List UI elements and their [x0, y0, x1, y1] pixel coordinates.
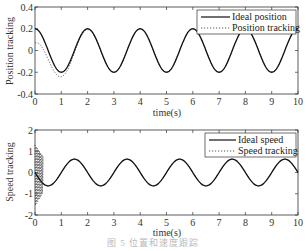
svg-text:4: 4	[138, 96, 143, 107]
y-axis-label-speed: Speed tracking	[4, 142, 15, 202]
speed-tracking-plot: -2-1012 012345678910 Speed tracking time…	[4, 125, 303, 240]
svg-text:1: 1	[59, 96, 64, 107]
svg-text:9: 9	[269, 96, 274, 107]
svg-text:6: 6	[190, 217, 195, 228]
svg-text:0: 0	[33, 96, 38, 107]
legend-speed: Ideal speed Speed tracking	[205, 133, 298, 157]
chart-canvas: -0.4-0.200.20.4 012345678910 Position tr…	[0, 0, 306, 251]
svg-text:0: 0	[28, 167, 33, 178]
svg-text:1: 1	[59, 217, 64, 228]
x-axis-label-position: time(s)	[153, 107, 181, 119]
svg-text:7: 7	[217, 217, 222, 228]
svg-text:0: 0	[28, 45, 33, 56]
svg-text:8: 8	[243, 217, 248, 228]
svg-text:6: 6	[190, 96, 195, 107]
y-axis-label-position: Position tracking	[4, 17, 15, 85]
legend-position-tracking: Position tracking	[232, 22, 300, 33]
svg-text:-0.2: -0.2	[17, 67, 33, 78]
svg-text:2: 2	[85, 217, 90, 228]
svg-text:2: 2	[28, 125, 33, 136]
figure-caption: 图 5 位置和速度跟踪	[0, 236, 306, 249]
position-tracking-plot: -0.4-0.200.20.4 012345678910 Position tr…	[4, 2, 303, 120]
svg-text:0.2: 0.2	[21, 23, 34, 34]
svg-text:3: 3	[111, 217, 116, 228]
svg-text:9: 9	[269, 217, 274, 228]
legend-speed-tracking: Speed tracking	[238, 145, 298, 156]
legend-position: Ideal position Position tracking	[197, 10, 300, 34]
svg-text:2: 2	[85, 96, 90, 107]
svg-text:7: 7	[217, 96, 222, 107]
svg-text:10: 10	[293, 96, 303, 107]
svg-text:-1: -1	[25, 188, 33, 199]
svg-text:3: 3	[111, 96, 116, 107]
svg-text:0.4: 0.4	[21, 2, 34, 13]
svg-text:10: 10	[293, 217, 303, 228]
svg-text:8: 8	[243, 96, 248, 107]
svg-text:1: 1	[28, 146, 33, 157]
svg-text:0: 0	[33, 217, 38, 228]
legend-ideal-speed: Ideal speed	[238, 134, 283, 145]
svg-text:-0.4: -0.4	[17, 89, 33, 100]
svg-text:4: 4	[138, 217, 143, 228]
svg-text:5: 5	[164, 96, 169, 107]
legend-ideal-position: Ideal position	[232, 11, 287, 22]
